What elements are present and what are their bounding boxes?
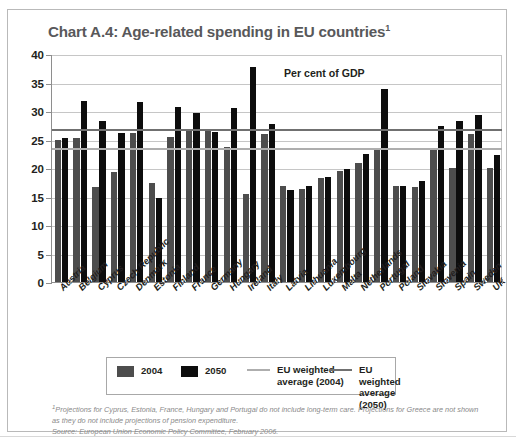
figure-frame: Chart A.4: Age-related spending in EU co… (7, 9, 507, 432)
bar-2050 (193, 113, 199, 282)
gridline (52, 55, 502, 56)
x-axis-tick (352, 279, 353, 284)
chart-title-text: Chart A.4: Age-related spending in EU co… (48, 23, 385, 40)
y-axis-tick-label: 20 (31, 163, 44, 175)
x-axis-tick (295, 279, 296, 284)
x-axis-tick (220, 279, 221, 284)
gridline (52, 84, 502, 85)
y-axis-tick-label: 40 (31, 49, 44, 61)
bar-2004 (280, 186, 286, 282)
x-axis-tick (89, 279, 90, 284)
legend-line-avg-2004 (247, 369, 270, 371)
y-axis-tick-mark (46, 198, 51, 199)
bar-2004 (261, 134, 267, 282)
bar-2004 (130, 133, 136, 282)
plot-area: Per cent of GDP (51, 55, 502, 283)
bar-2050 (212, 132, 218, 282)
bar-2050 (118, 133, 124, 282)
bar-2050 (62, 138, 68, 282)
bar-2050 (175, 107, 181, 282)
y-axis-tick-mark (46, 84, 51, 85)
legend-label-2004: 2004 (141, 365, 162, 377)
x-axis-tick (446, 279, 447, 284)
title-footnote-marker: 1 (385, 23, 390, 33)
gridline (52, 112, 502, 113)
y-axis-tick-label: 15 (31, 192, 44, 204)
x-axis-tick (239, 279, 240, 284)
x-axis-tick (70, 279, 71, 284)
bar-2050 (363, 154, 369, 282)
legend-item-2050: 2050 (181, 365, 226, 377)
page-title: Chart A.4: Age-related spending in EU co… (48, 23, 390, 40)
bar-2050 (99, 121, 105, 282)
y-axis-tick-mark (46, 55, 51, 56)
x-axis-tick (314, 279, 315, 284)
x-axis-tick (164, 279, 165, 284)
bar-2004 (468, 134, 474, 282)
y-axis-tick-label: 35 (31, 78, 44, 90)
plot-wrapper: Per cent of GDP 4035302520151050 (51, 55, 502, 283)
y-axis-tick-label: 5 (38, 249, 44, 261)
legend-item-2004: 2004 (117, 365, 162, 377)
y-axis-tick-label: 25 (31, 135, 44, 147)
bar-2050 (287, 190, 293, 282)
y-axis-tick-label: 10 (31, 220, 44, 232)
footnote-text: Projections for Cyprus, Estonia, France,… (52, 405, 478, 424)
page-text-bleed (46, 0, 466, 6)
bar-2004 (205, 130, 211, 282)
y-axis-tick-mark (46, 141, 51, 142)
x-axis-labels: AustriaBelgiumCyprusCzech RepublicDenmar… (51, 285, 502, 347)
reference-line-avg-2004 (52, 148, 502, 150)
x-axis-tick (126, 279, 127, 284)
legend-line-avg-2050 (329, 369, 352, 371)
bar-2004 (73, 138, 79, 282)
x-axis-tick (107, 279, 108, 284)
bar-2050 (475, 115, 481, 282)
y-axis-tick-label: 30 (31, 106, 44, 118)
bar-2004 (224, 147, 230, 282)
x-axis-tick (464, 279, 465, 284)
bar-2004 (167, 137, 173, 282)
footnote-note: 1Projections for Cyprus, Estonia, France… (52, 402, 482, 426)
bar-2050 (381, 89, 387, 282)
y-axis-tick-mark (46, 112, 51, 113)
x-axis-tick (201, 279, 202, 284)
bar-2004 (186, 130, 192, 282)
x-axis-tick (277, 279, 278, 284)
y-axis-tick-mark (46, 169, 51, 170)
y-axis-tick-mark (46, 226, 51, 227)
bar-2050 (306, 186, 312, 282)
x-axis-tick (370, 279, 371, 284)
x-axis-tick (145, 279, 146, 284)
x-axis-tick (389, 279, 390, 284)
y-axis-tick-label: 0 (38, 277, 44, 289)
x-axis-tick (258, 279, 259, 284)
axis-note: Per cent of GDP (284, 67, 365, 79)
legend-swatch-2004 (117, 366, 134, 377)
bar-2050 (250, 67, 256, 282)
x-axis-tick (483, 279, 484, 284)
page-bottom-rule (0, 436, 516, 437)
x-axis-tick (183, 279, 184, 284)
legend-swatch-2050 (181, 366, 198, 377)
x-axis-tick (502, 279, 503, 284)
legend-label-2050: 2050 (205, 365, 226, 377)
x-axis-tick (333, 279, 334, 284)
y-axis-tick-mark (46, 255, 51, 256)
footnote: 1Projections for Cyprus, Estonia, France… (52, 402, 482, 437)
x-axis-tick (427, 279, 428, 284)
x-axis-tick (408, 279, 409, 284)
reference-line-avg-2050 (52, 129, 502, 131)
legend: 2004 2050 EU weighted average (2004) EU … (106, 357, 396, 395)
bar-2004 (55, 140, 61, 283)
x-axis-tick (51, 279, 52, 284)
